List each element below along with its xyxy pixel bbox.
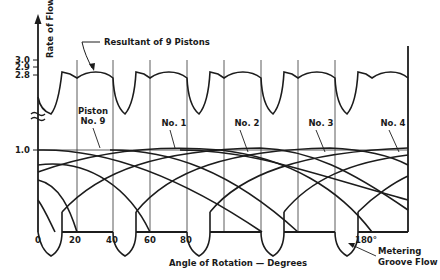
no1-label: No. 1 bbox=[161, 118, 186, 128]
x-tick-40: 40 bbox=[106, 235, 118, 245]
x-tick-180: 180° bbox=[355, 235, 377, 245]
no3-label: No. 3 bbox=[308, 118, 333, 128]
no4-label: No. 4 bbox=[380, 118, 405, 128]
piston-curves bbox=[38, 148, 408, 232]
piston-9-label-line2: No. 9 bbox=[80, 116, 105, 126]
x-tick-80: 80 bbox=[180, 235, 192, 245]
piston-flow-diagram: 3.0 2.9 2.8 1.0 Rate of Flow bbox=[0, 0, 440, 280]
x-tick-60: 60 bbox=[144, 235, 156, 245]
metering-label-line2: Groove Flow bbox=[378, 257, 438, 267]
x-tick-20: 20 bbox=[69, 235, 81, 245]
y-tick-1-0: 1.0 bbox=[15, 145, 30, 155]
y-tick-2-8: 2.8 bbox=[15, 70, 30, 80]
resultant-label: Resultant of 9 Pistons bbox=[104, 37, 210, 47]
x-tick-0: 0 bbox=[35, 235, 41, 245]
piston-9-label-line1: Piston bbox=[78, 106, 108, 116]
arrow-up-icon bbox=[35, 14, 42, 24]
metering-label-line1: Metering bbox=[378, 246, 421, 256]
no2-label: No. 2 bbox=[234, 118, 259, 128]
grid-lines bbox=[38, 46, 408, 232]
metering-grooves bbox=[38, 212, 408, 256]
y-axis-label: Rate of Flow bbox=[45, 0, 55, 58]
y-axis bbox=[31, 14, 45, 232]
x-axis-label: Angle of Rotation — Degrees bbox=[169, 258, 307, 268]
